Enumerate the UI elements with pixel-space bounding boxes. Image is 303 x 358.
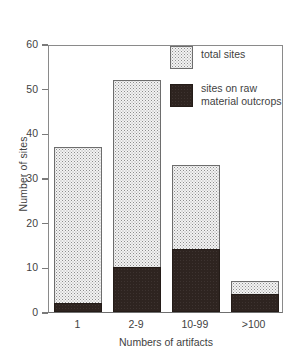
- bar-segment-outcrop-sites[interactable]: [54, 303, 102, 312]
- y-axis-tick-label: 10: [0, 261, 38, 273]
- legend-label-total-sites: total sites: [201, 48, 245, 61]
- x-axis-tick-label: >100: [214, 318, 294, 330]
- y-axis-tick-label: 40: [0, 127, 38, 139]
- plot-area: total sitessites on raw material outcrop…: [48, 45, 283, 313]
- bar-segment-total-sites[interactable]: [54, 147, 102, 312]
- y-axis-tick-label: 0: [0, 306, 38, 318]
- legend-swatch-total-sites: [170, 46, 193, 69]
- bar-segment-outcrop-sites[interactable]: [231, 294, 279, 312]
- bar-group[interactable]: [113, 80, 161, 312]
- y-axis-tick-label: 60: [0, 38, 38, 50]
- y-axis-tick-label: 50: [0, 83, 38, 95]
- bar-segment-outcrop-sites[interactable]: [172, 249, 220, 312]
- bar-group[interactable]: [54, 147, 102, 312]
- y-axis-tick-label: 30: [0, 172, 38, 184]
- legend-swatch-outcrop-sites: [170, 84, 193, 107]
- legend-label-outcrop-sites: sites on raw material outcrops: [201, 82, 282, 107]
- chart-figure: Number of sites 0102030405060 total site…: [0, 0, 303, 358]
- bar-group[interactable]: [172, 165, 220, 312]
- y-axis-tick-label: 20: [0, 217, 38, 229]
- bar-segment-outcrop-sites[interactable]: [113, 267, 161, 312]
- x-axis-title: Numbers of artifacts: [48, 336, 284, 348]
- bar-group[interactable]: [231, 281, 279, 312]
